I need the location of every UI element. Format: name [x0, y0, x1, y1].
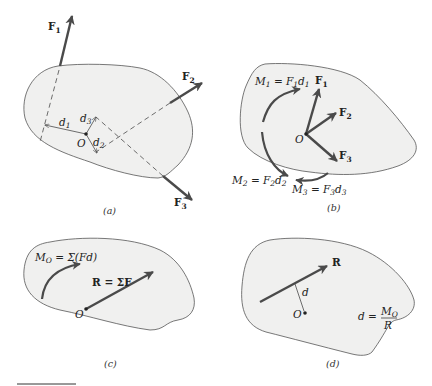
label-o-d: O — [293, 308, 302, 320]
label-o-c: O — [75, 308, 84, 320]
rigid-body-a — [24, 64, 193, 178]
label-r-d: R — [332, 256, 341, 268]
label-o-a: O — [77, 137, 86, 149]
caption-a: (a) — [103, 205, 116, 216]
label-f1-a: F1 — [48, 20, 61, 35]
label-o-b: O — [295, 133, 304, 145]
caption-d: (d) — [326, 358, 340, 369]
label-m3: M3 = F3d3 — [291, 183, 347, 197]
panel-d: R d O d = MO R (d) — [242, 238, 415, 369]
point-o-b — [304, 132, 308, 136]
caption-b: (b) — [327, 202, 341, 213]
caption-c: (c) — [104, 358, 117, 369]
panel-a: F1 F2 F3 d1 d3 d2 O (a) — [24, 16, 202, 216]
label-m1: M1 = F1d1 — [254, 75, 310, 89]
label-r-c: R = ΣF — [92, 276, 132, 288]
label-mo: MO = Σ(Fd) — [34, 251, 97, 265]
label-f2-a: F2 — [182, 70, 195, 85]
label-f3-a: F3 — [174, 196, 187, 211]
point-o-d — [303, 311, 307, 315]
force-system-diagram: F1 F2 F3 d1 d3 d2 O (a) F1 F2 F3 O M1 = … — [0, 0, 432, 386]
label-m2: M2 = F2d2 — [231, 174, 287, 188]
label-eq-den: R — [383, 319, 392, 331]
label-eq-lhs: d = — [358, 310, 377, 322]
point-o-c — [84, 307, 88, 311]
label-d: d — [302, 286, 309, 298]
moment-m3-arrow — [296, 173, 328, 181]
force-f1-vector — [60, 16, 72, 66]
point-o-a — [84, 132, 88, 136]
panel-b: F1 F2 F3 O M1 = F1d1 M2 = F2d2 M3 = F3d3… — [231, 64, 416, 213]
panel-c: MO = Σ(Fd) R = ΣF O (c) — [24, 238, 195, 369]
